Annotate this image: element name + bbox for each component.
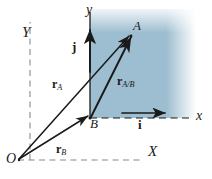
origin-label-O: O (6, 152, 16, 166)
unit-vector-label-i: i (138, 118, 142, 131)
axis-label-y: y (86, 3, 92, 17)
vector-subscript-A: A (57, 83, 62, 92)
axis-label-Y: Y (22, 25, 30, 40)
relative-position-vector-diagram: Y X y x O A B rA rB rA/B i j (0, 0, 212, 179)
unit-vector-label-j: j (72, 40, 76, 53)
vector-label-r-A-B: rA/B (117, 75, 135, 89)
point-label-B: B (90, 117, 98, 130)
shaded-region (90, 9, 196, 118)
axis-label-x: x (196, 109, 202, 123)
vector-r-B-arrow (19, 116, 88, 159)
point-label-A: A (133, 19, 141, 32)
vector-subscript-B: B (61, 148, 66, 157)
vector-label-r-A: rA (52, 78, 62, 92)
diagram-canvas (0, 0, 212, 179)
vector-label-r-B: rB (56, 143, 66, 157)
vector-subscript-A-over-B: A/B (122, 80, 134, 89)
point-A-dot (130, 35, 133, 38)
point-O-dot (18, 159, 20, 161)
axis-label-X: X (148, 144, 157, 159)
